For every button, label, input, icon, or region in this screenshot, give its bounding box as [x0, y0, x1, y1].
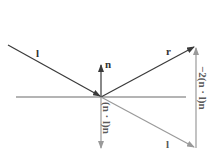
incident-copy-vector-label: l: [166, 138, 169, 150]
incident-copy-vector-arrow: [101, 97, 194, 147]
reflected-vector-label: r: [166, 45, 171, 57]
incident-vector-arrow: [8, 45, 100, 96]
reflected-vector-arrow: [101, 47, 194, 97]
normal-vector-label: n: [105, 58, 111, 70]
projection-vector-label: (n · l)n: [100, 102, 113, 134]
double-projection-vector-label: −2(n · l)n: [196, 66, 209, 110]
reflection-diagram: l n r (n · l)n l −2(n · l)n: [0, 0, 213, 153]
incident-vector-label: l: [36, 47, 39, 59]
